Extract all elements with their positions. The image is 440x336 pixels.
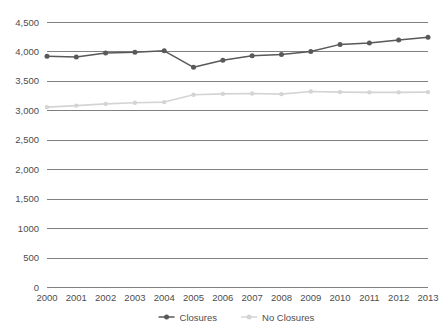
data-point [338, 42, 343, 47]
gridlines [47, 23, 428, 288]
data-point [45, 54, 50, 59]
data-point [191, 65, 196, 70]
y-axis-tick-label: 0 [34, 282, 39, 293]
data-point [220, 58, 225, 63]
legend-item[interactable]: No Closures [241, 312, 315, 323]
y-axis-tick-label: 3,000 [15, 105, 39, 116]
x-axis-tick-label: 2000 [36, 292, 57, 303]
data-point [74, 55, 79, 60]
data-point [221, 92, 225, 96]
data-point [279, 52, 284, 57]
data-point [191, 93, 195, 97]
data-point [396, 37, 401, 42]
data-point [45, 105, 49, 109]
data-point [367, 90, 371, 94]
legend-item[interactable]: Closures [159, 312, 218, 323]
y-axis-tick-label: 1000 [18, 223, 39, 234]
x-axis-tick-label: 2005 [183, 292, 204, 303]
y-axis-tick-label: 500 [23, 252, 39, 263]
legend-marker-icon [247, 315, 252, 320]
y-axis-tick-label: 4,000 [15, 46, 39, 57]
x-axis-tick-label: 2003 [124, 292, 145, 303]
series-layer [45, 35, 431, 109]
x-axis-tick-label: 2008 [271, 292, 292, 303]
y-axis-tick-label: 4,500 [15, 17, 39, 28]
data-point [162, 100, 166, 104]
x-axis-tick-label: 2007 [242, 292, 263, 303]
data-point [103, 50, 108, 55]
data-point [367, 40, 372, 45]
x-axis-tick-label: 2013 [417, 292, 438, 303]
x-axis-tick-label: 2006 [212, 292, 233, 303]
x-axis-tick-label: 2001 [66, 292, 87, 303]
x-axis-tick-label: 2009 [300, 292, 321, 303]
series-no-closures [45, 89, 430, 109]
data-point [308, 49, 313, 54]
legend-label: Closures [180, 312, 218, 323]
y-axis-tick-label: 1,500 [15, 193, 39, 204]
x-axis-tick-label: 2011 [359, 292, 379, 303]
data-point [309, 89, 313, 93]
data-point [250, 53, 255, 58]
data-point [279, 92, 283, 96]
y-axis-tick-label: 2,000 [15, 164, 39, 175]
data-point [132, 50, 137, 55]
line-chart: 4,5004,0003,5003,0002,5002,0001,50010005… [0, 0, 440, 336]
data-point [250, 91, 254, 95]
legend-label: No Closures [262, 312, 315, 323]
y-axis-tick-labels: 4,5004,0003,5003,0002,5002,0001,50010005… [15, 17, 39, 293]
y-axis-tick-label: 2,500 [15, 134, 39, 145]
x-axis-tick-label: 2002 [95, 292, 116, 303]
legend-marker-icon [164, 315, 169, 320]
series-closures [45, 35, 431, 70]
data-point [74, 103, 78, 107]
chart-legend: ClosuresNo Closures [159, 312, 315, 323]
data-point [426, 90, 430, 94]
x-axis-tick-labels: 2000200120022003200420052006200720082009… [36, 292, 438, 303]
x-axis-tick-label: 2004 [154, 292, 175, 303]
data-point [426, 35, 431, 40]
data-point [338, 90, 342, 94]
data-point [103, 102, 107, 106]
x-axis-tick-label: 2010 [330, 292, 351, 303]
x-axis-tick-label: 2012 [388, 292, 409, 303]
data-point [133, 100, 137, 104]
data-point [162, 48, 167, 53]
y-axis-tick-label: 3,500 [15, 75, 39, 86]
chart-canvas: 4,5004,0003,5003,0002,5002,0001,50010005… [0, 0, 440, 336]
data-point [396, 90, 400, 94]
